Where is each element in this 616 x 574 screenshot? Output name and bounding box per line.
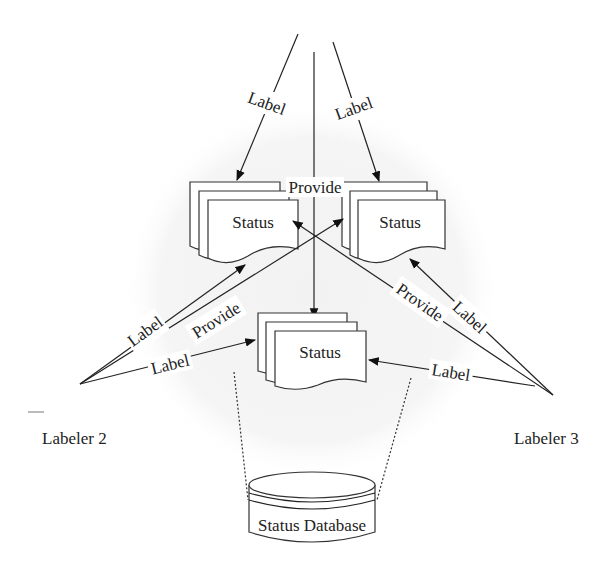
status-stack-bottom[interactable]: Status (258, 313, 366, 389)
status-label: Status (299, 343, 341, 362)
status-label: Status (379, 213, 421, 232)
database-label: Status Database (258, 516, 366, 535)
diagram-canvas: Label Label Status Status Provide Status (0, 0, 616, 574)
edge-label-provide-top: Provide (289, 178, 342, 197)
labeler-2-label: Labeler 2 (42, 429, 107, 448)
labeler-3-label: Labeler 3 (514, 429, 579, 448)
background-circle (122, 100, 502, 480)
status-database[interactable]: Status Database (249, 472, 375, 542)
status-label: Status (232, 213, 274, 232)
